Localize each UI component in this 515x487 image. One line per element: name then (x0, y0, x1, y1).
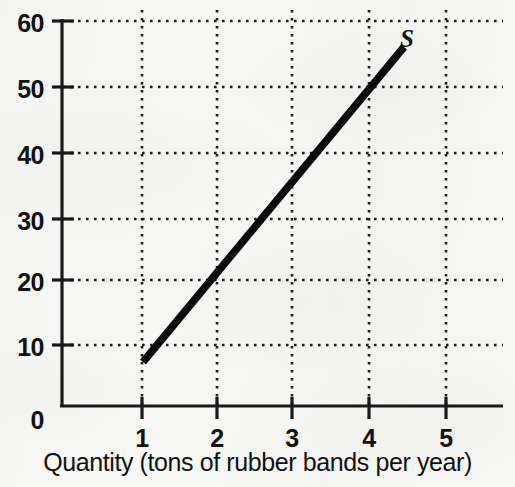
y-tick-label-10: 10 (0, 335, 44, 360)
x-axis-title: Quantity (tons of rubber bands per year) (0, 448, 515, 477)
y-tick-label-0: 0 (0, 408, 44, 433)
y-tick-label-50: 50 (0, 77, 44, 102)
x-axis-ticks (142, 397, 446, 419)
supply-curve-line (143, 47, 404, 362)
y-tick-label-30: 30 (0, 209, 44, 234)
chart-screenshot: 60 50 40 30 20 10 0 1 2 3 4 5 S Quantity… (0, 0, 515, 487)
y-tick-label-20: 20 (0, 270, 44, 295)
horizontal-gridlines (62, 21, 503, 345)
y-tick-label-40: 40 (0, 143, 44, 168)
supply-curve-plot (0, 0, 515, 487)
y-tick-label-60: 60 (0, 11, 44, 36)
supply-curve-label: S (400, 26, 414, 51)
